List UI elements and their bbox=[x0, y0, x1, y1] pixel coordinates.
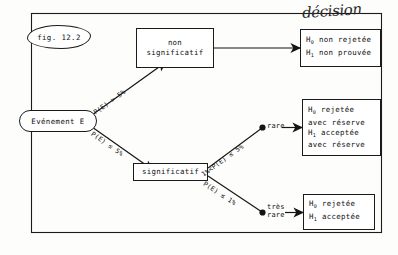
node-event: Evénement E bbox=[19, 110, 97, 132]
outcome-box-middle: H0 rejetée avec réserve H1 acceptée avec… bbox=[302, 99, 381, 156]
node-event-label: Evénement E bbox=[31, 117, 84, 126]
outcome-top-line1: H0 non rejetée bbox=[301, 35, 371, 48]
node-non-significatif: non significatif bbox=[136, 28, 214, 68]
figure-canvas: fig. 12.2 décision Evénement E non signi… bbox=[0, 0, 398, 255]
figure-tag: fig. 12.2 bbox=[27, 25, 91, 49]
outcome-middle-line3: H1 acceptée bbox=[303, 128, 359, 141]
outcome-box-bottom: H0 rejetée H1 acceptée bbox=[303, 194, 375, 230]
node-significatif: significatif bbox=[133, 163, 208, 181]
node-tres-rare-line2: rare bbox=[267, 211, 285, 219]
outcome-middle-line4: avec réserve bbox=[303, 140, 365, 150]
node-tres-rare-label: très rare bbox=[267, 203, 285, 220]
tresrare-junction-dot bbox=[259, 209, 265, 215]
outcome-middle-line1: H0 rejetée bbox=[303, 105, 354, 118]
rare-junction-dot bbox=[259, 124, 265, 130]
node-rare-label: rare bbox=[267, 122, 285, 130]
node-non-significatif-line1: non bbox=[168, 38, 182, 48]
outcome-middle-line2: avec réserve bbox=[303, 118, 365, 128]
outcome-bottom-line2: H1 acceptée bbox=[304, 212, 360, 225]
node-tres-rare-line1: très bbox=[267, 203, 285, 211]
node-significatif-label: significatif bbox=[142, 167, 199, 177]
figure-tag-label: fig. 12.2 bbox=[37, 33, 81, 42]
outcome-top-line2: H1 non prouvée bbox=[301, 48, 371, 61]
node-non-significatif-line2: significatif bbox=[147, 48, 204, 58]
outcome-box-top: H0 non rejetée H1 non prouvée bbox=[300, 29, 381, 67]
outcome-bottom-line1: H0 rejetée bbox=[304, 199, 355, 212]
